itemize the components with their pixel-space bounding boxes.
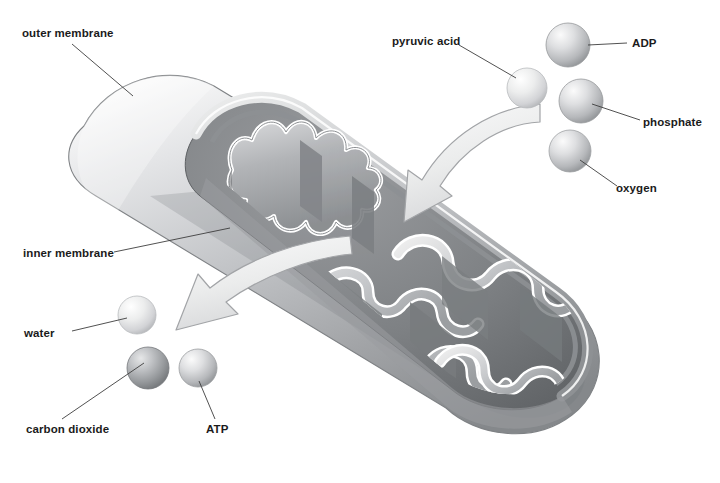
figure-canvas: outer membrane inner membrane water carb… [0,0,720,483]
sphere-pyruvic-acid [507,68,547,108]
leader-carbon-dioxide [62,363,144,419]
sphere-oxygen [549,130,591,172]
sphere-phosphate [559,79,603,123]
sphere-water [118,296,156,334]
leader-outer-membrane [72,44,133,96]
label-pyruvic-acid: pyruvic acid [392,35,460,47]
label-adp: ADP [632,37,657,49]
label-carbon-dioxide: carbon dioxide [26,423,109,435]
inflow-arrow [404,104,540,222]
leader-pyruvic-acid [459,45,516,78]
label-water: water [24,327,55,339]
label-oxygen: oxygen [616,182,657,194]
leader-adp [588,43,627,45]
label-outer-membrane: outer membrane [22,27,114,39]
leader-oxygen [580,160,617,186]
sphere-atp [179,349,217,387]
leader-atp [199,381,215,419]
leader-water [72,318,127,331]
label-atp: ATP [206,423,228,435]
sphere-carbon-dioxide [127,347,169,389]
mitochondrion-diagram [0,0,720,483]
label-inner-membrane: inner membrane [23,247,114,259]
label-phosphate: phosphate [643,116,702,128]
sphere-adp [546,23,590,67]
